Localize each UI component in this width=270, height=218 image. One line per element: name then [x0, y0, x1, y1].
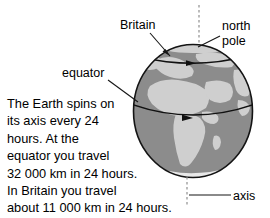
text-line: hours. At the	[7, 130, 172, 147]
equator-label: equator	[62, 66, 104, 80]
text-line: its axis every 24	[7, 112, 172, 129]
north-pole-label-line2: pole	[222, 34, 246, 48]
earth-rotation-figure: Britain north pole equator axis The Eart…	[0, 0, 270, 218]
britain-label: Britain	[120, 18, 155, 32]
axis-label: axis	[233, 189, 255, 203]
explanatory-text: The Earth spins on its axis every 24 hou…	[7, 95, 172, 217]
text-line: about 11 000 km in 24 hours.	[7, 199, 172, 216]
north-pole-leader-line	[198, 36, 220, 47]
text-line: The Earth spins on	[7, 95, 172, 112]
north-pole-label: north pole	[222, 19, 251, 49]
text-line: 32 000 km in 24 hours.	[7, 165, 172, 182]
text-line: In Britain you travel	[7, 182, 172, 199]
text-line: equator you travel	[7, 147, 172, 164]
north-pole-label-line1: north	[222, 19, 251, 33]
